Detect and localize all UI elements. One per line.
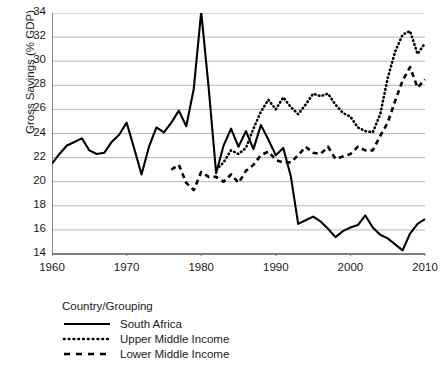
- chart-root: Gross Savings (% GDP) 343230282624222018…: [0, 0, 440, 366]
- x-tick-1970: 1970: [107, 261, 147, 273]
- x-tick-1990: 1990: [256, 261, 296, 273]
- legend-label: South Africa: [120, 318, 182, 330]
- legend-swatch-dotted: [62, 333, 114, 345]
- legend-items: South AfricaUpper Middle IncomeLower Mid…: [62, 316, 229, 361]
- series-line-upper-middle-income: [216, 31, 425, 170]
- y-tick-32: 32: [20, 29, 46, 41]
- y-tick-24: 24: [20, 126, 46, 138]
- x-tick-2000: 2000: [330, 261, 370, 273]
- x-tick-1980: 1980: [181, 261, 221, 273]
- y-tick-22: 22: [20, 150, 46, 162]
- x-tick-1960: 1960: [32, 261, 72, 273]
- y-tick-28: 28: [20, 77, 46, 89]
- legend-label: Lower Middle Income: [120, 348, 229, 360]
- legend-label: Upper Middle Income: [120, 333, 229, 345]
- y-tick-18: 18: [20, 198, 46, 210]
- legend-item-lower-middle-income[interactable]: Lower Middle Income: [62, 346, 229, 361]
- y-tick-30: 30: [20, 53, 46, 65]
- legend-swatch-solid: [62, 318, 114, 330]
- plot-area: [52, 13, 425, 254]
- legend-swatch-dashed: [62, 348, 114, 360]
- y-tick-20: 20: [20, 174, 46, 186]
- x-tick-2010: 2010: [405, 261, 440, 273]
- chart-canvas: [52, 13, 427, 256]
- y-tick-34: 34: [20, 5, 46, 17]
- chart-legend: Country/Grouping South AfricaUpper Middl…: [62, 300, 229, 361]
- y-tick-26: 26: [20, 101, 46, 113]
- y-tick-16: 16: [20, 222, 46, 234]
- legend-item-south-africa[interactable]: South Africa: [62, 316, 229, 331]
- legend-title: Country/Grouping: [62, 300, 229, 312]
- y-tick-14: 14: [20, 246, 46, 258]
- legend-item-upper-middle-income[interactable]: Upper Middle Income: [62, 331, 229, 346]
